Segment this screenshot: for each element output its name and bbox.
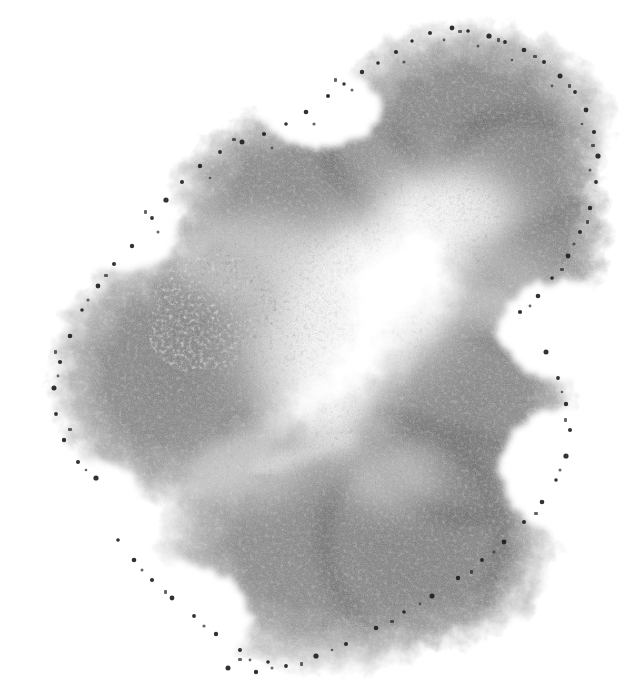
image-canvas: Grayscale Stipple Blob Amorphous multi-l… [0, 0, 626, 696]
blob-body [0, 0, 626, 696]
stipple-blob-artwork [0, 0, 626, 696]
coarse-grain-layer [0, 0, 626, 696]
